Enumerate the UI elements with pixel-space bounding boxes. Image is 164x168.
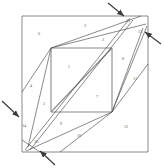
- edge-cut-i: [112, 64, 148, 112]
- arrow-top-right-corner-icon: [108, 3, 124, 16]
- dissection-figure: 12345678910111213141516: [0, 0, 164, 168]
- edge-cut-a: [22, 48, 51, 92]
- edge-cut-f: [30, 20, 133, 150]
- arrow-left-edge-icon: [2, 101, 19, 117]
- edge-layer: [22, 16, 148, 152]
- region-label-4: 4: [30, 83, 33, 88]
- edge-cut-d: [51, 24, 146, 48]
- region-label-8: 8: [122, 56, 124, 61]
- region-label-7: 7: [96, 94, 98, 99]
- region-label-9: 9: [60, 121, 62, 126]
- region-label-10: 10: [77, 133, 81, 138]
- region-label-12: 12: [124, 124, 128, 129]
- arrow-layer: [2, 3, 161, 165]
- region-label-15: 15: [126, 18, 130, 23]
- region-label-3: 3: [84, 23, 86, 28]
- region-label-6: 6: [38, 31, 40, 36]
- region-label-13: 13: [138, 29, 142, 34]
- region-label-5: 5: [43, 101, 45, 106]
- arrow-right-edge-icon: [145, 32, 161, 44]
- region-label-2: 2: [102, 37, 104, 42]
- diagram-canvas: 12345678910111213141516: [0, 0, 164, 168]
- region-label-14: 14: [22, 123, 27, 128]
- region-label-16: 16: [34, 139, 38, 144]
- region-label-11: 11: [133, 76, 137, 81]
- region-label-1: 1: [68, 64, 70, 69]
- arrow-bottom-left-corner-icon: [40, 151, 55, 165]
- edge-cut-g: [112, 26, 147, 112]
- edge-cut-e: [25, 18, 130, 150]
